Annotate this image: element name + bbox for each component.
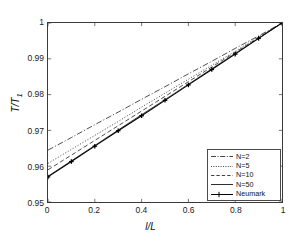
legend-item: N=2 xyxy=(211,152,278,161)
legend: N=2 N=5 N=10 N=50 Neumark xyxy=(207,149,281,201)
legend-label: Neumark xyxy=(236,190,265,198)
series-line-n-2 xyxy=(48,23,282,150)
legend-label: N=50 xyxy=(236,181,253,189)
legend-item: N=5 xyxy=(211,161,278,170)
x-axis-label: l/L xyxy=(0,221,301,232)
series-line-n-10 xyxy=(48,23,282,170)
legend-label: N=5 xyxy=(236,162,249,170)
legend-line-sample-solid xyxy=(211,180,233,189)
figure: 1 0.99 0.98 0.97 0.96 0.95 0 0.2 0.4 0.6… xyxy=(0,0,301,241)
legend-line-sample-dashdot xyxy=(211,152,233,161)
x-tick-label: 0.6 xyxy=(183,206,195,215)
legend-line-sample-dashed xyxy=(211,171,233,180)
legend-line-sample-dotted xyxy=(211,162,233,171)
y-tick-label: 1 xyxy=(39,18,44,27)
y-tick-label: 0.97 xyxy=(27,126,44,135)
legend-line-sample-solid-plus-marker xyxy=(211,190,233,199)
y-tick-label: 0.99 xyxy=(27,54,44,63)
legend-item: N=50 xyxy=(211,180,278,189)
x-tick-label: 0.2 xyxy=(88,206,100,215)
y-axis-label-subscript: 1 xyxy=(15,93,24,97)
y-tick-label: 0.96 xyxy=(27,162,44,171)
x-tick-label: 0.4 xyxy=(135,206,147,215)
x-tick-label: 0.8 xyxy=(230,206,242,215)
legend-item: N=10 xyxy=(211,171,278,180)
series-line-n-5 xyxy=(48,23,282,163)
legend-item: Neumark xyxy=(211,190,278,199)
x-tick-label: 1 xyxy=(281,206,286,215)
legend-label: N=2 xyxy=(236,153,249,161)
y-axis-label: T/T1 xyxy=(10,73,24,133)
y-tick-label: 0.98 xyxy=(27,90,44,99)
y-tick-label: 0.95 xyxy=(27,199,44,208)
y-axis-label-base: T/T xyxy=(10,98,21,113)
legend-label: N=10 xyxy=(236,171,253,179)
x-tick-label: 0 xyxy=(45,206,50,215)
